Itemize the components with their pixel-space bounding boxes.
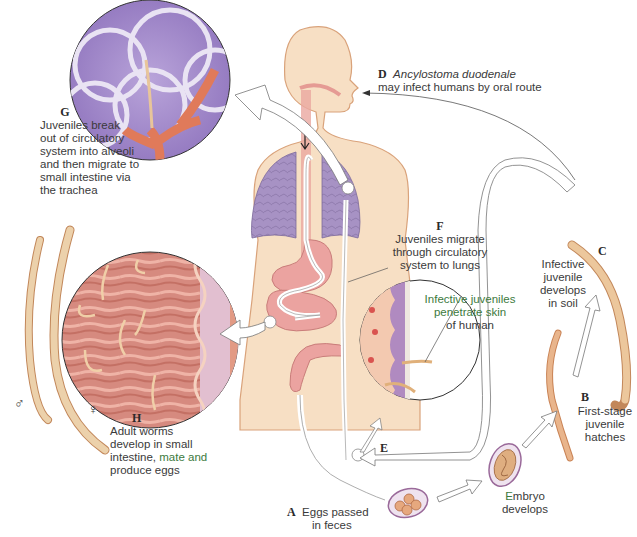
label-f: F Juveniles migrate through circulatory … [365,220,515,272]
egg-stage-a [385,484,431,521]
male-symbol: ♂ [14,397,25,410]
intestine-point [264,316,276,328]
arrow-a-to-embryo [437,480,482,502]
label-a: A Eggs passed in feces [287,506,369,532]
label-d: D Ancylostoma duodenale may infect human… [378,68,542,94]
juvenile-penetrating-skin [402,361,432,363]
label-c-text: Infective juvenile develops in soil [528,258,598,310]
label-b-letter: B [581,391,589,404]
arrow-embryo-to-b [522,411,557,448]
label-g: G Juveniles break out of circulatory sys… [40,106,139,197]
label-e-letter: E [380,442,388,455]
label-h: H Adult worms develop in small intestine… [110,412,207,477]
egg-embryo [483,439,526,491]
label-c-letter: C [598,245,607,258]
left-lung [251,152,296,238]
label-b-text: First-stage juvenile hatches [570,405,637,444]
lung-entry-point [342,182,354,194]
label-embryo: EEmbryombryo develops [490,490,560,516]
female-symbol: ♀ [88,403,99,416]
label-e-text: Infective juveniles penetrate skin of hu… [410,293,530,332]
